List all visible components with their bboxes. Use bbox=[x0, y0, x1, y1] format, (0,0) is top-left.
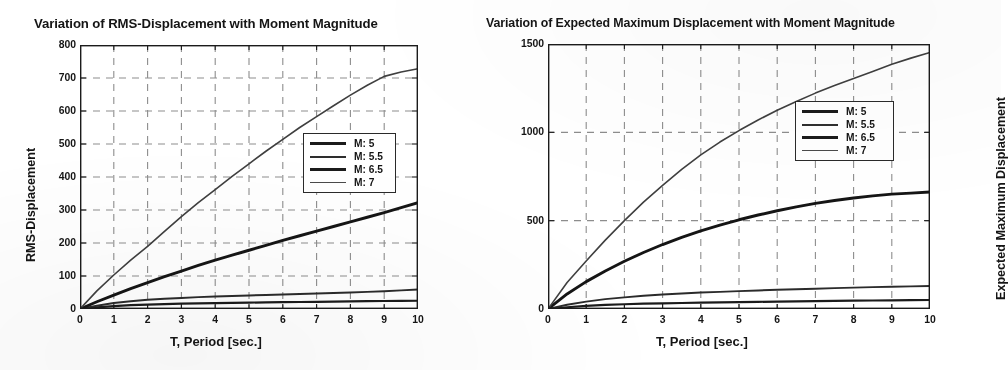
x-tick-label: 8 bbox=[842, 314, 866, 325]
legend-item-label: M: 5.5 bbox=[354, 151, 383, 162]
legend-item-label: M: 5 bbox=[354, 138, 374, 149]
legend-line-swatch-icon bbox=[800, 133, 840, 143]
x-tick-label: 1 bbox=[102, 314, 126, 325]
plot-area-right bbox=[548, 44, 930, 309]
x-tick-label: 2 bbox=[612, 314, 636, 325]
legend-line-swatch-icon bbox=[800, 120, 840, 130]
legend-line-swatch-icon bbox=[308, 178, 348, 188]
legend-item-label: M: 7 bbox=[354, 177, 374, 188]
y-axis-label-right: Expected Maximum Displacement bbox=[994, 97, 1008, 300]
x-tick-label: 10 bbox=[918, 314, 942, 325]
legend-item-label: M: 5.5 bbox=[846, 119, 875, 130]
y-tick-label: 500 bbox=[38, 138, 76, 149]
legend-item[interactable]: M: 6.5 bbox=[800, 131, 888, 144]
plot-canvas-right bbox=[548, 44, 930, 309]
legend-left: M: 5M: 5.5M: 6.5M: 7 bbox=[303, 133, 396, 193]
y-tick-label: 0 bbox=[506, 303, 544, 314]
y-tick-label: 800 bbox=[38, 39, 76, 50]
legend-item[interactable]: M: 5.5 bbox=[800, 118, 888, 131]
x-tick-label: 3 bbox=[169, 314, 193, 325]
legend-item[interactable]: M: 5 bbox=[308, 137, 390, 150]
x-tick-label: 7 bbox=[305, 314, 329, 325]
y-tick-label: 100 bbox=[38, 270, 76, 281]
x-tick-label: 1 bbox=[574, 314, 598, 325]
legend-item-label: M: 6.5 bbox=[846, 132, 875, 143]
x-tick-label: 2 bbox=[136, 314, 160, 325]
page-title-left: Variation of RMS-Displacement with Momen… bbox=[34, 16, 378, 31]
x-axis-label-left: T, Period [sec.] bbox=[170, 334, 262, 349]
y-tick-label: 1500 bbox=[506, 38, 544, 49]
x-tick-label: 9 bbox=[880, 314, 904, 325]
y-tick-label: 600 bbox=[38, 105, 76, 116]
x-tick-label: 10 bbox=[406, 314, 430, 325]
x-tick-label: 8 bbox=[338, 314, 362, 325]
y-axis-label-left: RMS-Displacement bbox=[24, 148, 38, 262]
x-tick-label: 0 bbox=[68, 314, 92, 325]
panel-expected-maximum-displacement: Variation of Expected Maximum Displaceme… bbox=[470, 0, 1001, 370]
y-tick-label: 300 bbox=[38, 204, 76, 215]
legend-item[interactable]: M: 7 bbox=[308, 176, 390, 189]
y-tick-label: 1000 bbox=[506, 126, 544, 137]
legend-item[interactable]: M: 6.5 bbox=[308, 163, 390, 176]
panel-rms-displacement: Variation of RMS-Displacement with Momen… bbox=[0, 0, 470, 370]
legend-item-label: M: 5 bbox=[846, 106, 866, 117]
y-tick-label: 200 bbox=[38, 237, 76, 248]
y-tick-label: 400 bbox=[38, 171, 76, 182]
legend-item-label: M: 6.5 bbox=[354, 164, 383, 175]
legend-line-swatch-icon bbox=[308, 165, 348, 175]
x-tick-label: 3 bbox=[651, 314, 675, 325]
x-tick-label: 6 bbox=[271, 314, 295, 325]
y-tick-label: 700 bbox=[38, 72, 76, 83]
x-tick-label: 0 bbox=[536, 314, 560, 325]
legend-line-swatch-icon bbox=[800, 146, 840, 156]
x-tick-label: 4 bbox=[203, 314, 227, 325]
x-tick-label: 9 bbox=[372, 314, 396, 325]
x-tick-label: 7 bbox=[803, 314, 827, 325]
legend-item[interactable]: M: 5 bbox=[800, 105, 888, 118]
legend-line-swatch-icon bbox=[308, 139, 348, 149]
legend-line-swatch-icon bbox=[800, 107, 840, 117]
y-tick-label: 500 bbox=[506, 215, 544, 226]
legend-line-swatch-icon bbox=[308, 152, 348, 162]
x-tick-label: 5 bbox=[237, 314, 261, 325]
y-tick-label: 0 bbox=[38, 303, 76, 314]
page-title-right: Variation of Expected Maximum Displaceme… bbox=[486, 16, 895, 30]
x-axis-label-right: T, Period [sec.] bbox=[656, 334, 748, 349]
x-tick-label: 6 bbox=[765, 314, 789, 325]
legend-right: M: 5M: 5.5M: 6.5M: 7 bbox=[795, 101, 894, 161]
legend-item[interactable]: M: 5.5 bbox=[308, 150, 390, 163]
legend-item-label: M: 7 bbox=[846, 145, 866, 156]
legend-item[interactable]: M: 7 bbox=[800, 144, 888, 157]
x-tick-label: 4 bbox=[689, 314, 713, 325]
x-tick-label: 5 bbox=[727, 314, 751, 325]
